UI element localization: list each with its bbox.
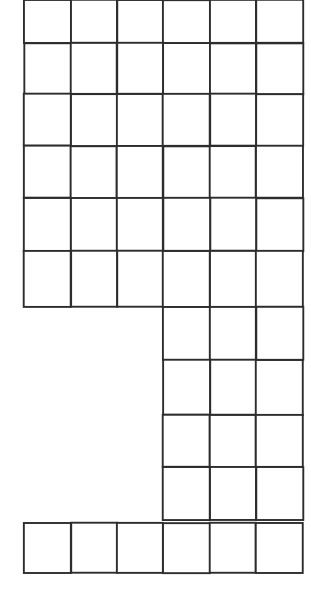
bottom-row-block <box>24 523 303 573</box>
grid-cell <box>24 251 71 307</box>
grid-cell <box>163 146 210 198</box>
grid-cell <box>256 146 303 198</box>
grid-cell <box>163 467 210 520</box>
grid-cell <box>117 0 163 43</box>
grid-diagram <box>0 0 311 609</box>
grid-cell <box>117 94 163 146</box>
grid-cell <box>210 251 256 307</box>
grid-cell <box>163 94 210 146</box>
grid-cell <box>210 0 256 43</box>
grid-cell <box>256 0 303 43</box>
right-column-block <box>163 307 304 520</box>
grid-cell <box>256 523 303 573</box>
grid-cell <box>163 307 210 360</box>
grid-cell <box>210 146 256 198</box>
grid-cell <box>210 94 256 146</box>
grid-cell <box>71 523 117 573</box>
grid-cell <box>256 360 303 415</box>
grid-cell <box>163 523 210 573</box>
grid-cell <box>24 43 71 94</box>
grid-ink-layer <box>24 0 304 573</box>
grid-cell <box>71 0 117 43</box>
grid-cell <box>163 415 210 467</box>
grid-cell <box>117 43 163 94</box>
grid-cell <box>117 198 163 251</box>
grid-cell <box>71 94 117 146</box>
grid-cell <box>24 0 71 43</box>
grid-cell <box>210 523 256 573</box>
grid-cell <box>24 198 71 251</box>
grid-cell <box>210 307 256 360</box>
grid-cell <box>163 360 210 415</box>
grid-cell <box>163 43 210 94</box>
grid-cell <box>117 251 163 307</box>
grid-cell <box>163 251 210 307</box>
grid-cell <box>71 43 117 94</box>
grid-cell <box>210 43 256 94</box>
grid-cell <box>163 0 210 43</box>
grid-cell <box>256 467 303 520</box>
grid-cell <box>163 198 210 251</box>
grid-cell <box>24 146 71 198</box>
grid-cell <box>256 43 303 94</box>
grid-cell <box>256 251 303 307</box>
grid-cell <box>117 523 163 573</box>
grid-cell <box>210 467 256 520</box>
grid-cell <box>256 415 303 467</box>
grid-cell <box>256 94 303 146</box>
grid-figure-canvas <box>0 0 311 609</box>
grid-cell <box>71 198 117 251</box>
grid-cell <box>24 94 71 146</box>
grid-cell <box>71 251 117 307</box>
grid-cell <box>210 198 256 251</box>
grid-cell <box>256 307 303 360</box>
top-block <box>24 0 304 307</box>
grid-cell <box>117 146 163 198</box>
grid-cell <box>24 523 71 573</box>
grid-cell <box>210 360 256 415</box>
grid-cell <box>210 415 256 467</box>
grid-cell <box>256 198 303 251</box>
grid-cell <box>71 146 117 198</box>
